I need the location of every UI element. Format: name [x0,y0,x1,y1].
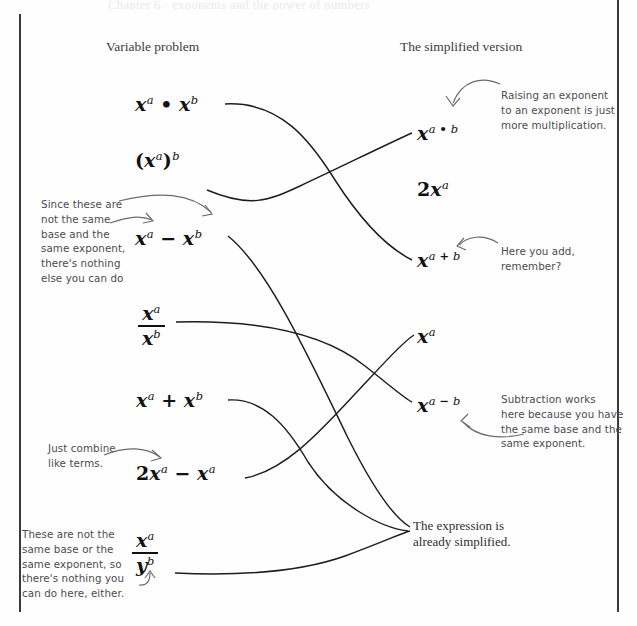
base-x: x [430,178,441,200]
base-x: x [417,122,428,144]
annotation-line: to an exponent is just [501,103,631,118]
exponent-a-minus-b: a − b [429,394,461,408]
outer-exponent-b: b [172,149,179,163]
annotation-line: same exponent, so [22,557,140,572]
operator-plus: + [161,389,177,411]
annotation-line: These are not the [22,527,140,542]
column-heading-simplified-version: The simplified version [400,39,522,55]
answer-x-to-a-times-b[interactable]: xa • b [417,124,458,143]
annotation-arrowhead-raising-exponent [446,96,460,106]
worksheet-page: Chapter 6 · exponents and the power of n… [0,0,637,626]
answer-2x-a[interactable]: 2xa [417,180,449,199]
connector-prob4-to-ans5 [176,322,412,402]
base-x-2: x [179,93,190,115]
exponent-a: a [442,178,449,192]
annotation-arrow-here-you-add [459,237,498,245]
annotation-line: not the same [41,212,146,227]
exponent-a: a [429,325,436,339]
annotation-line: base and the [41,227,146,242]
answer-line-2: already simplified. [413,534,563,550]
answer-line-1: The expression is [413,518,563,534]
base-x: x [149,462,160,484]
base-x: x [144,149,155,171]
paren-open: ( [135,149,144,171]
annotation-arrowhead-to-x-b [202,205,212,216]
annotation-combine-like-terms: Just combine like terms. [48,441,143,471]
answer-x-to-a-plus-b[interactable]: xa + b [417,251,460,270]
problem-x-a-quantity-to-b[interactable]: (xa)b [135,151,179,170]
annotation-arrowhead-subtraction-works [461,414,470,427]
annotation-not-same-base: Since these are not the same base and th… [41,197,146,286]
base-x: x [417,249,428,271]
annotation-line: else you can do [41,271,146,286]
exponent-b: b [196,389,203,403]
page-border-left [19,14,21,612]
column-heading-variable-problem: Variable problem [106,39,199,55]
fraction-denominator: xb [138,328,165,348]
problem-x-a-over-x-b[interactable]: xa xb [138,303,165,348]
annotation-line: same exponent. [501,436,626,451]
problem-x-a-plus-x-b[interactable]: xa + xb [136,391,203,410]
exponent-b: b [191,93,198,107]
annotation-arrow-raising-exponent [453,80,500,103]
annotation-line: Subtraction works [501,392,626,407]
connector-prob3-to-ans6 [228,236,410,527]
base-x-2: x [197,462,208,484]
exponent-a: a [147,227,154,241]
annotation-line: Here you add, [501,244,611,259]
annotation-line: like terms. [48,456,143,471]
base-x: x [136,389,147,411]
coefficient-2: 2 [417,178,430,200]
annotation-line: Just combine [48,441,143,456]
exponent-a: a [161,462,168,476]
annotation-line: Raising an exponent [501,88,631,103]
answer-already-simplified[interactable]: The expression is already simplified. [413,518,563,550]
operator-minus: − [160,227,176,249]
base-x: x [417,394,428,416]
connector-prob7-to-ans6 [175,531,410,574]
exponent-a-plus-b: a + b [429,249,461,263]
annotation-line: the same base and the [501,422,626,437]
exponent-a: a [148,389,155,403]
connector-prob6-to-ans4 [245,335,414,478]
annotation-arrowhead-combine-like-terms [151,450,161,461]
exponent-a: a [147,93,154,107]
problem-2x-a-minus-x-a[interactable]: 2xa − xa [136,464,216,483]
fraction-numerator: xa [138,303,165,323]
operator-dot: • [160,93,172,115]
annotation-line: same base or the [22,542,140,557]
paren-close: ) [163,149,172,171]
annotation-subtraction-works: Subtraction works here because you have … [501,392,626,451]
connector-prob1-to-ans3 [225,104,412,260]
annotation-line: Since these are [41,197,146,212]
cut-off-header-text: Chapter 6 · exponents and the power of n… [108,0,538,10]
base-x-2: x [183,227,194,249]
exponent-a: a [156,149,163,163]
exponent-b: b [195,227,202,241]
annotation-not-same-base-or-exponent: These are not the same base or the same … [22,527,140,601]
answer-x-to-a-minus-b[interactable]: xa − b [417,396,460,415]
annotation-line: there's nothing [41,256,146,271]
annotation-line: can do here, either. [22,586,140,601]
operator-minus: − [174,462,190,484]
annotation-raising-exponent: Raising an exponent to an exponent is ju… [501,88,631,132]
annotation-line: there's nothing you [22,571,140,586]
problem-x-a-times-x-b[interactable]: xa • xb [135,95,198,114]
exponent-a-dot-b: a • b [429,122,458,136]
connector-prob2-to-ans1 [207,133,412,201]
exponent-a-2: a [209,462,216,476]
annotation-line: here because you have [501,407,626,422]
annotation-line: same exponent, [41,241,146,256]
base-x: x [135,93,146,115]
answer-x-a[interactable]: xa [417,327,436,346]
base-x-2: x [184,389,195,411]
connector-prob5-to-ans6 [228,400,408,531]
base-x: x [417,325,428,347]
annotation-line: remember? [501,259,611,274]
annotation-here-you-add: Here you add, remember? [501,244,611,274]
annotation-line: more multiplication. [501,118,631,133]
